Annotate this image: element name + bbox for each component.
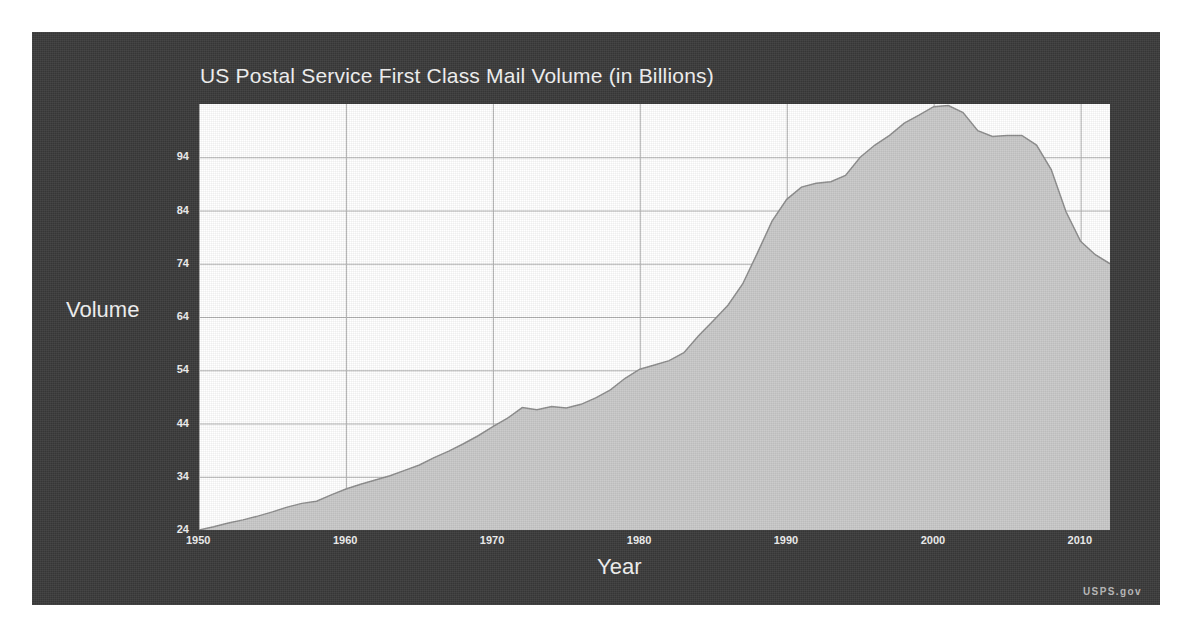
source-attribution: USPS.gov [1083,586,1142,597]
x-tick-label: 2010 [1068,534,1092,546]
y-tick-label: 64 [155,310,189,322]
y-tick-label: 34 [155,470,189,482]
chart-title: US Postal Service First Class Mail Volum… [200,64,714,88]
y-tick-label: 54 [155,363,189,375]
x-tick-label: 1970 [480,534,504,546]
x-tick-label: 1960 [333,534,357,546]
area-chart-svg [199,104,1110,530]
y-tick-label: 24 [155,523,189,535]
y-tick-label: 94 [155,150,189,162]
x-tick-label: 2000 [921,534,945,546]
x-tick-label: 1980 [627,534,651,546]
y-tick-label: 74 [155,257,189,269]
chart-panel: US Postal Service First Class Mail Volum… [32,32,1160,605]
chart-page: US Postal Service First Class Mail Volum… [0,0,1179,640]
y-tick-label: 84 [155,204,189,216]
x-axis-title: Year [597,554,641,580]
plot-area [199,104,1110,530]
y-axis-title: Volume [66,297,139,323]
x-tick-label: 1950 [186,534,210,546]
y-tick-label: 44 [155,417,189,429]
x-tick-label: 1990 [774,534,798,546]
